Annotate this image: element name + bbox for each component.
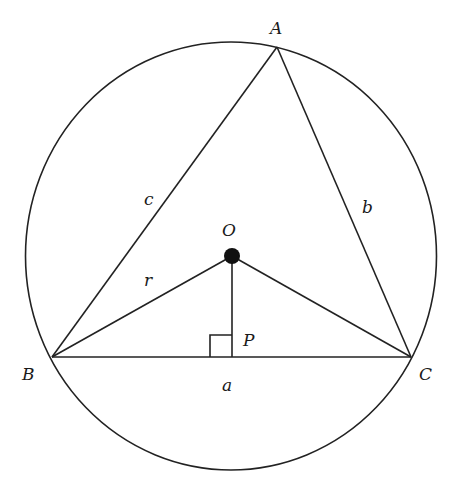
label-C: C [419,364,432,384]
circumcircle-diagram: A B C O P a b c r [0,0,458,483]
label-side-c: c [144,189,154,209]
label-B: B [21,364,35,384]
radius-OC [232,256,411,357]
radius-OB [52,256,232,357]
label-O: O [222,220,236,240]
side-b-AC [277,47,411,357]
label-P: P [242,330,255,350]
label-A: A [268,18,282,38]
label-radius-r: r [144,270,153,290]
center-point-O [224,248,240,264]
side-c-AB [52,47,277,357]
right-angle-marker [210,335,232,357]
label-side-a: a [222,375,232,395]
label-side-b: b [362,197,373,217]
